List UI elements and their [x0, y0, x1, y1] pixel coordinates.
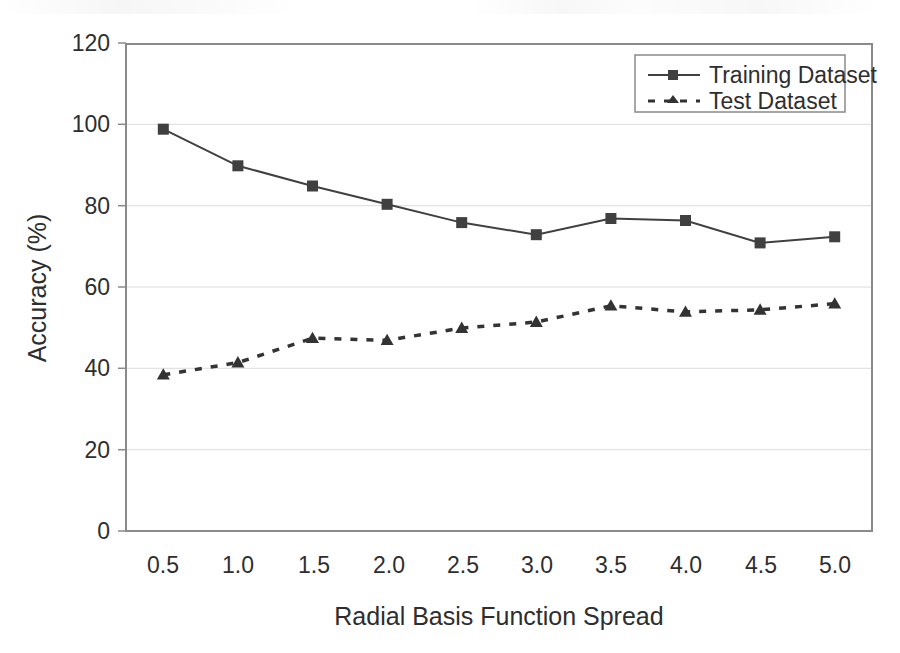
x-tick-label-8: 4.5 [745, 552, 777, 578]
y-tick-label-80: 80 [84, 193, 110, 219]
y-tick-label-40: 40 [84, 355, 110, 381]
data-point-square-marker [829, 231, 840, 242]
x-tick-label-1: 1.0 [222, 552, 254, 578]
x-axis-tick-labels: 0.5 1.0 1.5 2.0 2.5 3.0 3.5 4.0 4.5 5.0 [147, 552, 851, 578]
data-point-square-marker [382, 199, 393, 210]
y-axis-tick-labels: 120 100 80 60 40 20 0 [72, 30, 110, 544]
line-chart: 120 100 80 60 40 20 0 Accuracy (%) 0.5 1… [0, 0, 900, 653]
x-tick-label-9: 5.0 [819, 552, 851, 578]
chart-page: 120 100 80 60 40 20 0 Accuracy (%) 0.5 1… [0, 0, 900, 653]
data-point-square-marker [158, 124, 169, 135]
y-axis-ticks [118, 43, 126, 531]
data-point-square-marker [531, 229, 542, 240]
y-tick-label-0: 0 [97, 518, 110, 544]
x-tick-label-3: 2.0 [373, 552, 405, 578]
x-tick-label-0: 0.5 [147, 552, 179, 578]
legend-label-test: Test Dataset [709, 88, 837, 114]
x-tick-label-7: 4.0 [670, 552, 702, 578]
y-tick-label-60: 60 [84, 274, 110, 300]
x-axis-title: Radial Basis Function Spread [334, 602, 663, 630]
data-point-square-marker [232, 160, 243, 171]
y-tick-label-100: 100 [72, 111, 110, 137]
data-point-square-marker [755, 237, 766, 248]
y-tick-label-20: 20 [84, 437, 110, 463]
data-point-square-marker [456, 217, 467, 228]
legend-label-training: Training Dataset [709, 62, 878, 88]
data-point-square-marker [680, 215, 691, 226]
x-tick-label-5: 3.0 [521, 552, 553, 578]
legend: Training Dataset Test Dataset [635, 55, 878, 114]
x-tick-label-4: 2.5 [447, 552, 479, 578]
data-point-square-marker [307, 181, 318, 192]
data-point-square-marker [605, 213, 616, 224]
x-tick-label-6: 3.5 [595, 552, 627, 578]
x-tick-label-2: 1.5 [298, 552, 330, 578]
y-axis-title: Accuracy (%) [23, 214, 51, 363]
legend-square-marker-icon [668, 70, 678, 80]
y-tick-label-120: 120 [72, 30, 110, 56]
